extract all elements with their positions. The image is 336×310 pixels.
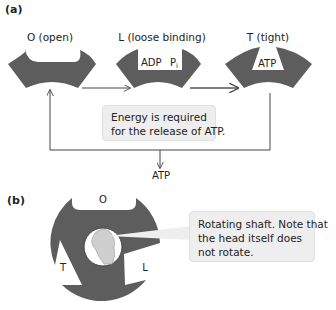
site-label-tight: T [60, 262, 66, 273]
diagram-canvas: ADP Pi ATP [0, 0, 336, 310]
subunit-loose-shape: ADP Pi [116, 49, 201, 88]
shaft-callout-line1: Rotating shaft. Note that [198, 217, 306, 231]
adp-label: ADP [141, 57, 162, 68]
atp-bound-label: ATP [258, 58, 276, 69]
shaft-callout-line3: not rotate. [198, 245, 306, 259]
energy-callout-line2: for the release of ATP. [111, 124, 207, 138]
energy-callout: Energy is required for the release of AT… [102, 105, 216, 141]
energy-callout-line1: Energy is required [111, 110, 207, 124]
subunit-tight-shape: ATP [225, 47, 312, 88]
atp-output-label: ATP [152, 170, 170, 181]
shaft-callout: Rotating shaft. Note that the head itsel… [189, 211, 315, 262]
shaft-callout-line2: the head itself does [198, 231, 306, 245]
site-label-open: O [99, 194, 107, 205]
subunit-open-shape [8, 50, 96, 88]
panel-b-label: (b) [7, 194, 25, 207]
pi-label: Pi [170, 57, 178, 70]
site-label-loose: L [142, 262, 148, 273]
